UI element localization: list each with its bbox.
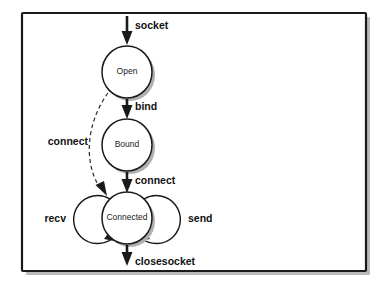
transition-label-connect-bound: connect bbox=[135, 174, 176, 186]
socket-state-diagram: socket Open bind Bound connect connect r… bbox=[0, 0, 388, 285]
transition-label-socket: socket bbox=[135, 19, 169, 31]
state-diagram-container: socket Open bind Bound connect connect r… bbox=[0, 0, 388, 285]
transition-label-send: send bbox=[188, 212, 213, 224]
state-label-connected: Connected bbox=[106, 212, 147, 222]
state-label-bound: Bound bbox=[115, 139, 140, 149]
transition-label-closesocket: closesocket bbox=[135, 255, 196, 267]
transition-label-bind: bind bbox=[135, 100, 157, 112]
state-label-open: Open bbox=[117, 66, 138, 76]
transition-label-recv: recv bbox=[44, 212, 66, 224]
transition-label-connect-open: connect bbox=[48, 135, 89, 147]
